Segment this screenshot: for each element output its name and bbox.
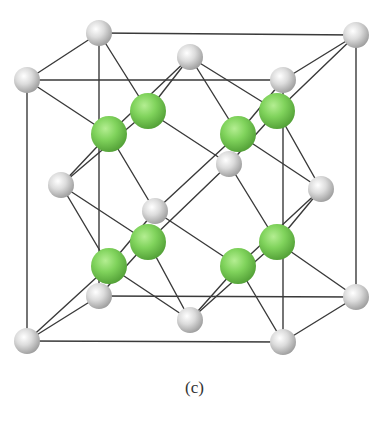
green-atom-upper-back-left <box>130 93 166 129</box>
gray-atom-front-face-center <box>142 198 168 224</box>
green-atom-lower-back-left <box>130 224 166 260</box>
gray-atom-back-top-left <box>86 20 112 46</box>
green-atom-upper-front-left <box>91 116 127 152</box>
gray-atom-back-bottom-left <box>86 283 112 309</box>
figure-caption: (c) <box>0 378 389 398</box>
green-atom-lower-back-right <box>259 224 295 260</box>
gray-atom-right-face-center <box>308 176 334 202</box>
gray-atom-front-top-left <box>14 67 40 93</box>
fluorite-unit-cell-diagram <box>0 0 389 422</box>
gray-atom-bottom-face-center <box>177 307 203 333</box>
green-atom-upper-back-right <box>259 93 295 129</box>
green-atom-lower-front-left <box>91 248 127 284</box>
gray-atom-front-bottom-right <box>270 329 296 355</box>
gray-atom-front-top-right <box>270 67 296 93</box>
gray-atom-back-face-center <box>216 151 242 177</box>
anion-atoms <box>91 93 295 284</box>
gray-atom-left-face-center <box>48 172 74 198</box>
gray-atom-top-face-center <box>177 44 203 70</box>
gray-atom-front-bottom-left <box>14 328 40 354</box>
green-atom-upper-front-right <box>220 116 256 152</box>
gray-atom-back-top-right <box>343 22 369 48</box>
green-atom-lower-front-right <box>220 248 256 284</box>
gray-atom-back-bottom-right <box>343 284 369 310</box>
